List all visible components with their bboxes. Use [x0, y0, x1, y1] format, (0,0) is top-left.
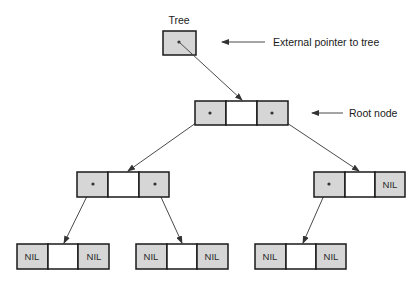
leaf-node-2: NIL NIL — [136, 244, 228, 269]
nil-label: NIL — [144, 251, 159, 262]
nil-label: NIL — [25, 251, 40, 262]
leaf-node-3: NIL NIL — [255, 244, 346, 269]
binary-tree-diagram: Tree External pointer to tree Root node … — [0, 0, 418, 284]
nil-label: NIL — [383, 179, 398, 190]
nil-label: NIL — [324, 251, 339, 262]
edge-tree-to-root — [179, 42, 242, 100]
tree-label: Tree — [168, 14, 189, 26]
nil-label: NIL — [87, 251, 102, 262]
level2-right-node: NIL — [314, 172, 405, 197]
root-node — [195, 101, 288, 125]
level2-left-node — [77, 172, 169, 197]
leaf-node-1: NIL NIL — [17, 244, 109, 269]
nil-label: NIL — [205, 251, 220, 262]
external-pointer-annotation: External pointer to tree — [273, 36, 379, 48]
root-node-annotation: Root node — [349, 107, 398, 119]
nil-label: NIL — [263, 251, 278, 262]
